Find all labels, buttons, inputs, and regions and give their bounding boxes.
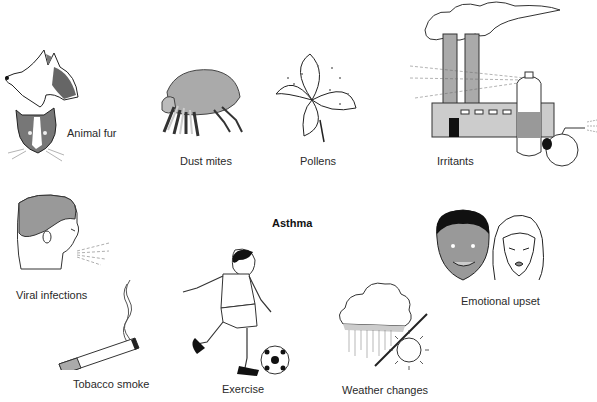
label-dust-mites: Dust mites	[180, 155, 232, 167]
rain-sun-icon	[335, 280, 435, 370]
label-pollens: Pollens	[300, 155, 336, 167]
faces-icon	[433, 208, 568, 283]
factory-spray-icon	[405, 0, 597, 170]
label-weather-changes: Weather changes	[342, 384, 428, 396]
dog-cat-icon	[4, 45, 79, 165]
flower-icon	[270, 50, 360, 145]
diagram-title: Asthma	[272, 217, 312, 229]
label-animal-fur: Animal fur	[67, 127, 117, 139]
label-irritants: Irritants	[437, 155, 474, 167]
dust-mite-icon	[152, 62, 247, 137]
cigarette-icon	[55, 280, 145, 370]
label-emotional-upset: Emotional upset	[461, 295, 540, 307]
sneezing-person-icon	[5, 193, 115, 273]
label-exercise: Exercise	[222, 383, 264, 395]
soccer-player-icon	[177, 248, 297, 378]
label-tobacco-smoke: Tobacco smoke	[73, 378, 149, 390]
